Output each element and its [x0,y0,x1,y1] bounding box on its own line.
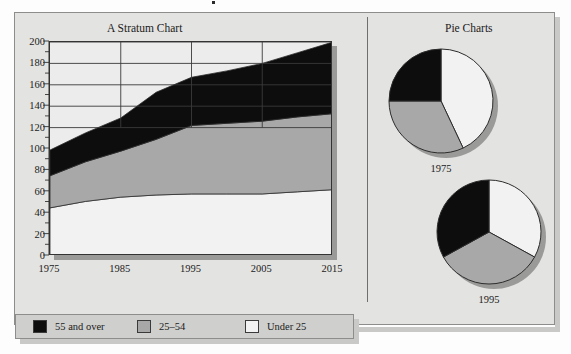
pie-label-1995: 1995 [479,294,500,305]
x-tick-label-2005: 2005 [251,263,272,274]
legend-entry-55-and-over[interactable]: 55 and over [33,320,105,333]
legend-swatch-under-25 [245,320,259,333]
legend-entry-under-25[interactable]: Under 25 [245,320,306,333]
stratum-plot-svg [50,42,332,255]
x-tick-label-2015: 2015 [322,263,343,274]
pie-chart-panel: Pie Charts 1975 1995 [367,13,556,303]
pie-chart-1975 [389,49,498,158]
stratum-chart-title: A Stratum Chart [107,22,182,34]
x-tick-label-1995: 1995 [180,263,201,274]
figure-panel: A Stratum Chart 020406080100120140160180… [14,12,555,325]
y-axis-labels: 020406080100120140160180200 [15,13,45,303]
stratum-plot-area [49,41,332,255]
legend-box: 55 and over 25–54 Under 25 [15,314,354,339]
pie-slice-1975-55-and-over[interactable] [389,49,441,101]
legend-label-25-54: 25–54 [159,321,185,332]
stray-speck [212,1,215,4]
stratum-bands [50,42,332,255]
legend-swatch-55-and-over [33,320,47,333]
y-axis-ticks [43,13,51,303]
x-tick-label-1975: 1975 [39,263,60,274]
pie-charts-title: Pie Charts [445,22,493,34]
legend-swatch-25-54 [137,320,151,333]
x-tick-label-1985: 1985 [109,263,130,274]
legend-label-55-and-over: 55 and over [55,321,105,332]
pie-chart-1995 [437,180,546,289]
legend-label-under-25: Under 25 [267,321,306,332]
legend-entry-25-54[interactable]: 25–54 [137,320,185,333]
pies-svg [367,13,556,303]
pie-label-1975: 1975 [431,163,452,174]
stratum-chart: A Stratum Chart 020406080100120140160180… [15,13,367,303]
